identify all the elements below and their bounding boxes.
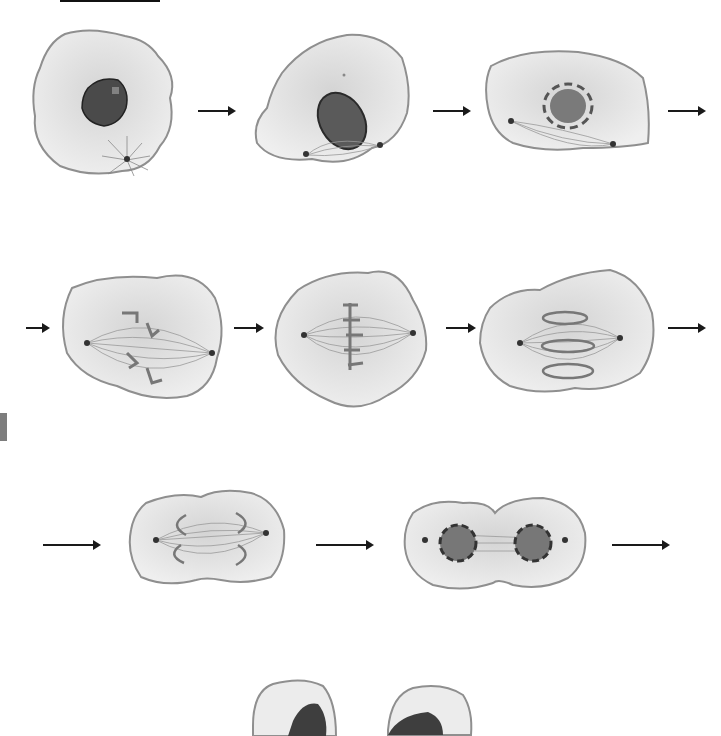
arrow-r2-2 bbox=[446, 323, 476, 333]
arrow-r2-3 bbox=[668, 323, 706, 333]
cell-telophase bbox=[403, 493, 588, 593]
cropped-header-bar bbox=[60, 0, 160, 2]
cell-prometaphase bbox=[483, 48, 653, 158]
cell-daughter-right bbox=[383, 680, 473, 735]
page-edge-tab bbox=[0, 413, 7, 441]
arrow-r3-1 bbox=[43, 540, 101, 550]
arrow-r1-2 bbox=[433, 106, 471, 116]
arrow-r1-1 bbox=[198, 106, 236, 116]
arrow-r3-3 bbox=[612, 540, 670, 550]
cell-daughter-left bbox=[248, 676, 338, 736]
arrow-r2-1 bbox=[234, 323, 264, 333]
arrow-r1-3 bbox=[668, 106, 706, 116]
arrow-r3-2 bbox=[316, 540, 374, 550]
arrow-r2-0 bbox=[26, 323, 50, 333]
cell-interphase bbox=[30, 28, 180, 178]
cell-late-anaphase bbox=[126, 485, 286, 590]
cell-anaphase bbox=[480, 268, 660, 398]
cell-prometaphase-late bbox=[57, 268, 227, 403]
cell-early-prophase bbox=[252, 33, 412, 168]
cell-metaphase bbox=[268, 265, 433, 415]
